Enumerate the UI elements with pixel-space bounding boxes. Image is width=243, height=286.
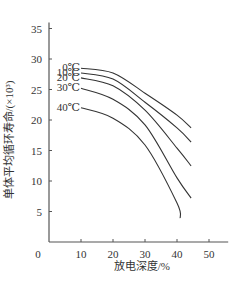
y-tick-label: 5 — [37, 206, 43, 218]
curves — [81, 68, 191, 218]
ticks: 10203040505101520253035 — [31, 23, 215, 261]
series-line — [81, 88, 191, 198]
chart: 10203040505101520253035 0℃10℃20℃30℃40℃ 0… — [0, 0, 243, 286]
x-tick-label: 10 — [76, 248, 88, 260]
origin-label: 0 — [35, 248, 41, 260]
series-line — [81, 68, 191, 128]
axes — [49, 22, 228, 242]
x-tick-label: 20 — [108, 248, 120, 260]
series-label: 40℃ — [57, 101, 80, 113]
x-axis-title: 放电深度/% — [114, 259, 170, 272]
y-tick-label: 30 — [31, 53, 43, 65]
series-line — [81, 78, 191, 166]
y-tick-label: 10 — [31, 175, 43, 187]
series-line — [81, 73, 191, 142]
y-axis-title: 单体平均循环寿命/(×10³) — [2, 80, 16, 199]
series-line — [81, 108, 181, 218]
y-tick-label: 20 — [31, 114, 43, 126]
x-tick-label: 30 — [140, 248, 152, 260]
y-tick-label: 15 — [31, 145, 43, 157]
y-tick-label: 35 — [31, 23, 43, 35]
series-labels: 0℃10℃20℃30℃40℃ — [57, 61, 80, 113]
series-label: 30℃ — [57, 81, 80, 93]
y-tick-label: 25 — [31, 84, 43, 96]
x-tick-label: 40 — [172, 248, 184, 260]
x-tick-label: 50 — [204, 248, 216, 260]
